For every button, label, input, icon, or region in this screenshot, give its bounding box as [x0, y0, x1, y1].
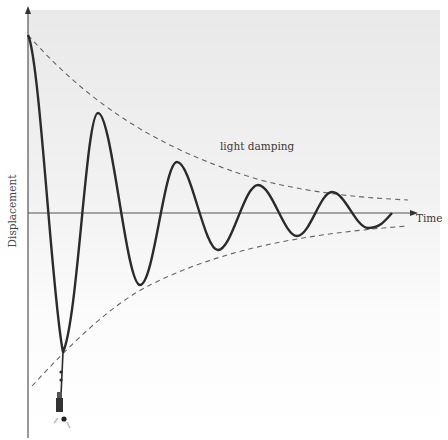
pen-stylus-icon: [54, 352, 70, 428]
light-damping-label: light damping: [220, 140, 294, 152]
y-axis-label: Displacement: [6, 173, 18, 249]
displacement-curve: [28, 35, 392, 352]
x-axis-label: Time: [416, 212, 443, 224]
damped-oscillation-diagram: [0, 0, 448, 440]
y-axis-arrow-icon: [25, 6, 31, 14]
